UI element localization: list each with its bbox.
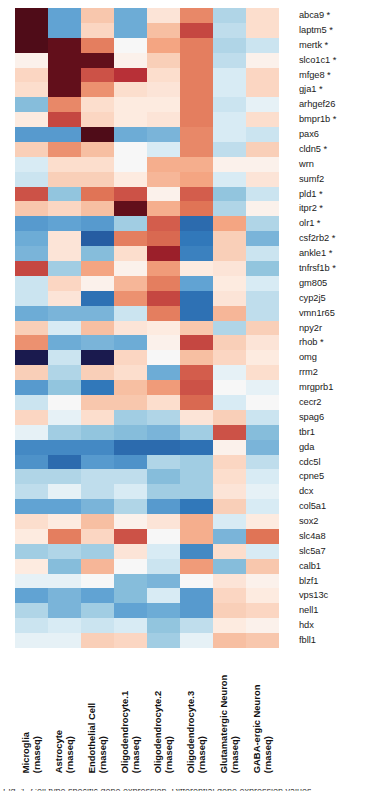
heatmap-cell <box>147 455 180 470</box>
heatmap-cell <box>48 112 81 127</box>
heatmap-cell <box>114 603 147 618</box>
heatmap-cell <box>81 425 114 440</box>
heatmap-cell <box>114 157 147 172</box>
heatmap-cell <box>147 187 180 202</box>
heatmap-cell <box>147 201 180 216</box>
figure-caption: Fig. 1. Cell type specific gene expressi… <box>0 789 378 797</box>
sample-column-label: Microglia(rnaseq) <box>15 651 48 773</box>
heatmap-cell <box>114 201 147 216</box>
heatmap-cell <box>246 380 279 395</box>
heatmap-cell <box>213 618 246 633</box>
heatmap-cell <box>15 172 48 187</box>
heatmap-cell <box>213 53 246 68</box>
gene-row-label: sumf2 <box>299 172 378 187</box>
gene-row-label: npy2r <box>299 321 378 336</box>
heatmap-cell <box>15 365 48 380</box>
heatmap-cell <box>246 618 279 633</box>
heatmap-cell <box>147 291 180 306</box>
sample-name: Oligodendrocyte.2 <box>152 691 163 773</box>
heatmap-cell <box>81 633 114 648</box>
heatmap-cell <box>81 276 114 291</box>
sample-name: Glutamatergic Neuron <box>218 675 229 773</box>
heatmap-cell <box>147 306 180 321</box>
sample-name: Astrocyte <box>53 730 64 773</box>
heatmap-cell <box>48 38 81 53</box>
heatmap-cell <box>81 53 114 68</box>
heatmap-cell <box>114 23 147 38</box>
heatmap-cell <box>81 410 114 425</box>
heatmap-cell <box>147 276 180 291</box>
heatmap-cell <box>15 603 48 618</box>
heatmap-cell <box>246 261 279 276</box>
heatmap-cell <box>48 68 81 83</box>
heatmap-cell <box>15 395 48 410</box>
heatmap-cell <box>180 588 213 603</box>
sample-name: Endothelial Cell <box>86 703 97 773</box>
heatmap-cell <box>15 321 48 336</box>
heatmap-cell <box>246 588 279 603</box>
gene-row-label: fbll1 <box>299 633 378 648</box>
heatmap-cell <box>180 172 213 187</box>
heatmap-cell <box>246 603 279 618</box>
heatmap-cell <box>114 440 147 455</box>
heatmap-cell <box>81 216 114 231</box>
heatmap-cell <box>48 276 81 291</box>
heatmap-cell <box>180 127 213 142</box>
heatmap-cell <box>15 529 48 544</box>
sample-column-label: Astrocyte(rnaseq) <box>48 651 81 773</box>
heatmap-cell <box>48 410 81 425</box>
heatmap-cell <box>114 410 147 425</box>
sample-name: Oligodendrocyte.3 <box>185 691 196 773</box>
heatmap-cell <box>213 425 246 440</box>
heatmap-cell <box>48 335 81 350</box>
heatmap-cell <box>213 246 246 261</box>
heatmap-cell <box>15 8 48 23</box>
heatmap-cell <box>246 112 279 127</box>
heatmap-cell <box>48 321 81 336</box>
heatmap-cell <box>147 499 180 514</box>
heatmap-cell <box>180 187 213 202</box>
heatmap-cell <box>15 82 48 97</box>
heatmap-cell <box>213 261 246 276</box>
heatmap-cell <box>246 440 279 455</box>
heatmap-cell <box>48 246 81 261</box>
heatmap-cell <box>81 529 114 544</box>
gene-row-label: pld1 * <box>299 187 378 202</box>
gene-row-label: cpne5 <box>299 469 378 484</box>
heatmap-cell <box>147 425 180 440</box>
heatmap-cell <box>180 455 213 470</box>
gene-row-label: tbr1 <box>299 425 378 440</box>
heatmap-cell <box>81 38 114 53</box>
gene-row-label: calb1 <box>299 559 378 574</box>
heatmap-cell <box>48 350 81 365</box>
heatmap-cell <box>48 529 81 544</box>
heatmap-cell <box>180 529 213 544</box>
heatmap-cell <box>213 201 246 216</box>
heatmap-cell <box>213 335 246 350</box>
heatmap-cell <box>246 97 279 112</box>
heatmap-cell <box>147 82 180 97</box>
heatmap-cell <box>48 127 81 142</box>
heatmap-cell <box>15 574 48 589</box>
heatmap-cell <box>246 246 279 261</box>
heatmap-cell <box>180 321 213 336</box>
heatmap-cell <box>213 306 246 321</box>
gene-row-label: rhob * <box>299 335 378 350</box>
heatmap-cell <box>81 514 114 529</box>
sample-assay: (rnaseq) <box>98 703 109 773</box>
heatmap-cell <box>81 484 114 499</box>
heatmap-cell <box>48 395 81 410</box>
heatmap-cell <box>81 8 114 23</box>
heatmap-cell <box>246 172 279 187</box>
heatmap-cell <box>147 380 180 395</box>
heatmap-cell <box>48 380 81 395</box>
heatmap-cell <box>147 365 180 380</box>
heatmap-cell <box>81 321 114 336</box>
heatmap-cell <box>81 335 114 350</box>
sample-name: Microglia <box>20 732 31 773</box>
heatmap-cell <box>48 82 81 97</box>
heatmap-cell <box>147 23 180 38</box>
heatmap-cell <box>114 529 147 544</box>
heatmap-cell <box>81 201 114 216</box>
heatmap-cell <box>114 276 147 291</box>
